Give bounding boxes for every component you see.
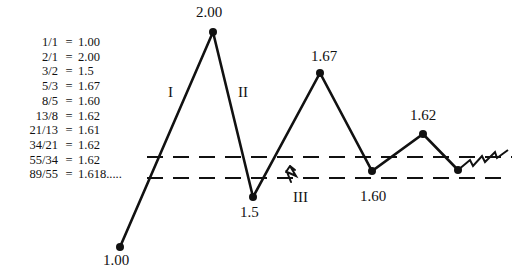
pivot-value-label: 1.62 <box>410 107 436 124</box>
wave-number-label: III <box>293 189 308 206</box>
pivot-point-dot <box>368 167 376 175</box>
wave-path <box>120 32 458 247</box>
fibonacci-wave-diagram <box>0 0 520 276</box>
pivot-point-dot <box>209 28 217 36</box>
wave-number-label: II <box>238 84 248 101</box>
pivot-point-dot <box>454 166 462 174</box>
pivot-point-dot <box>249 193 257 201</box>
pivot-value-label: 2.00 <box>196 4 222 21</box>
price-wave-line <box>120 32 458 247</box>
pivot-value-label: 1.60 <box>360 188 386 205</box>
continuation-zigzag-icon <box>458 150 508 170</box>
wave-number-label: I <box>168 84 173 101</box>
pivot-value-label: 1.00 <box>103 252 129 269</box>
hand-drawn-arrow-icon <box>286 166 296 182</box>
pivot-point-dot <box>116 243 124 251</box>
pivot-value-label: 1.5 <box>240 204 259 221</box>
pivot-point-dot <box>316 69 324 77</box>
pivot-point-dot <box>419 130 427 138</box>
pivot-value-label: 1.67 <box>311 48 337 65</box>
